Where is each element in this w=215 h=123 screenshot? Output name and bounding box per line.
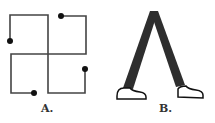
figure-a-pinwheel: [10, 15, 86, 93]
left-shoe-icon: [117, 88, 146, 99]
dot-icon: [82, 66, 88, 72]
dot-icon: [31, 90, 37, 96]
dot-icon: [7, 38, 13, 44]
figure-b-label: B.: [159, 102, 172, 115]
pinwheel-arm-top-left: [10, 15, 48, 54]
figure-canvas: [0, 0, 215, 123]
right-leg: [151, 11, 185, 87]
right-shoe-icon: [178, 86, 203, 98]
figure-b-legs: [117, 11, 203, 99]
left-leg: [123, 11, 158, 89]
dot-icon: [58, 13, 64, 19]
pinwheel-arm-bottom-right: [48, 54, 85, 93]
figure-a-label: A.: [41, 102, 53, 115]
